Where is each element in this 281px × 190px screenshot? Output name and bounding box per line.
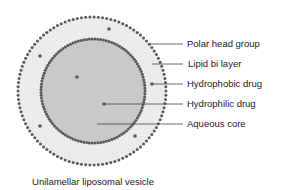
diagram-caption: Unilamellar liposomal vesicle bbox=[0, 176, 186, 187]
label-hydrophobic-drug: Hydrophobic drug bbox=[187, 79, 262, 89]
label-polar-head-group: Polar head group bbox=[187, 39, 260, 49]
label-hydrophilic-drug: Hydrophilic drug bbox=[187, 99, 256, 109]
label-lipid-bilayer: Lipid bi layer bbox=[188, 59, 241, 69]
label-aqueous-core: Aqueous core bbox=[187, 119, 246, 129]
liposome-diagram bbox=[0, 0, 281, 190]
